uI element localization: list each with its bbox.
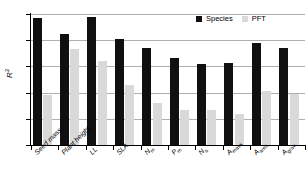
x-axis-label: Pm [170, 145, 182, 157]
y-axis-tick: 0.2 [0, 119, 26, 120]
x-axis-label-base: LL [88, 145, 98, 155]
bar-pft [235, 114, 244, 145]
bar-group [195, 14, 222, 145]
legend-swatch-species-icon [196, 16, 202, 22]
x-axis-tick-mark [141, 146, 142, 150]
bar-pft [290, 94, 299, 145]
x-axis-label-base: A [252, 148, 260, 156]
y-axis-tick: 0.8 [0, 40, 26, 41]
x-axis-tick-mark [31, 146, 32, 150]
x-axis-label-base: A [280, 148, 288, 156]
bar-species [142, 48, 151, 145]
x-axis-label-subscript: m [148, 146, 155, 153]
x-axis-tick-mark [305, 146, 306, 150]
y-axis-title: R2 [4, 58, 15, 88]
x-axis-tick-mark [113, 146, 114, 150]
bar-pft [43, 95, 52, 145]
x-axis-label: LL [88, 145, 99, 156]
bar-group [141, 14, 168, 145]
bar-species [115, 39, 124, 145]
bar-group [86, 14, 113, 145]
bar-species [224, 63, 233, 145]
bar-species [33, 18, 42, 145]
x-axis-label-base: N [197, 147, 206, 156]
bar-pft [125, 85, 134, 145]
bar-pft [207, 110, 216, 145]
r2-bar-chart: R2 00.20.40.60.81 Seed massPlant heightL… [0, 0, 307, 192]
legend-entry-species: Species [196, 14, 233, 23]
bar-pft [98, 61, 107, 145]
bar-pft [153, 103, 162, 145]
bar-species [60, 34, 69, 145]
y-axis-tick: 0.4 [0, 93, 26, 94]
bar-group [223, 14, 250, 145]
x-axis-tick-mark [223, 146, 224, 150]
bar-species [197, 64, 206, 145]
legend-swatch-pft-icon [242, 16, 248, 22]
y-axis-title-exponent: 2 [4, 69, 10, 72]
x-axis-tick-mark [250, 146, 251, 150]
bar-group [58, 14, 85, 145]
chart-legend: Species PFT [196, 14, 266, 23]
bar-species [87, 17, 96, 145]
x-axis-tick-mark [278, 146, 279, 150]
x-axis-label-base: P [170, 148, 178, 156]
bar-group [113, 14, 140, 145]
bar-species [252, 43, 261, 145]
legend-label-species: Species [206, 14, 233, 23]
bar-species [279, 48, 288, 145]
bar-pft [70, 49, 79, 145]
x-axis-tick-mark [58, 146, 59, 150]
bar-pft [262, 91, 271, 145]
legend-entry-pft: PFT [242, 14, 266, 23]
bar-species [170, 58, 179, 145]
x-axis-tick-mark [168, 146, 169, 150]
x-axis-label-base: A [225, 148, 233, 156]
y-axis-tick: 0.6 [0, 66, 26, 67]
bar-group [31, 14, 58, 145]
plot-area [31, 14, 305, 145]
x-axis-label-subscript: a [203, 147, 209, 153]
bar-group [168, 14, 195, 145]
x-axis-tick-mark [86, 146, 87, 150]
bar-pft [180, 110, 189, 145]
legend-label-pft: PFT [252, 14, 266, 23]
x-axis-tick-mark [195, 146, 196, 150]
y-axis-title-base: R [5, 72, 14, 78]
y-axis-tick: 1 [0, 14, 26, 15]
x-axis-label: Na [197, 145, 208, 156]
x-axis-label: Nm [143, 144, 155, 156]
x-axis-label-subscript: m [175, 146, 182, 153]
y-axis-tick: 0 [0, 145, 26, 146]
bar-group [250, 14, 277, 145]
x-axis-label-base: N [143, 147, 152, 156]
bar-group [278, 14, 305, 145]
